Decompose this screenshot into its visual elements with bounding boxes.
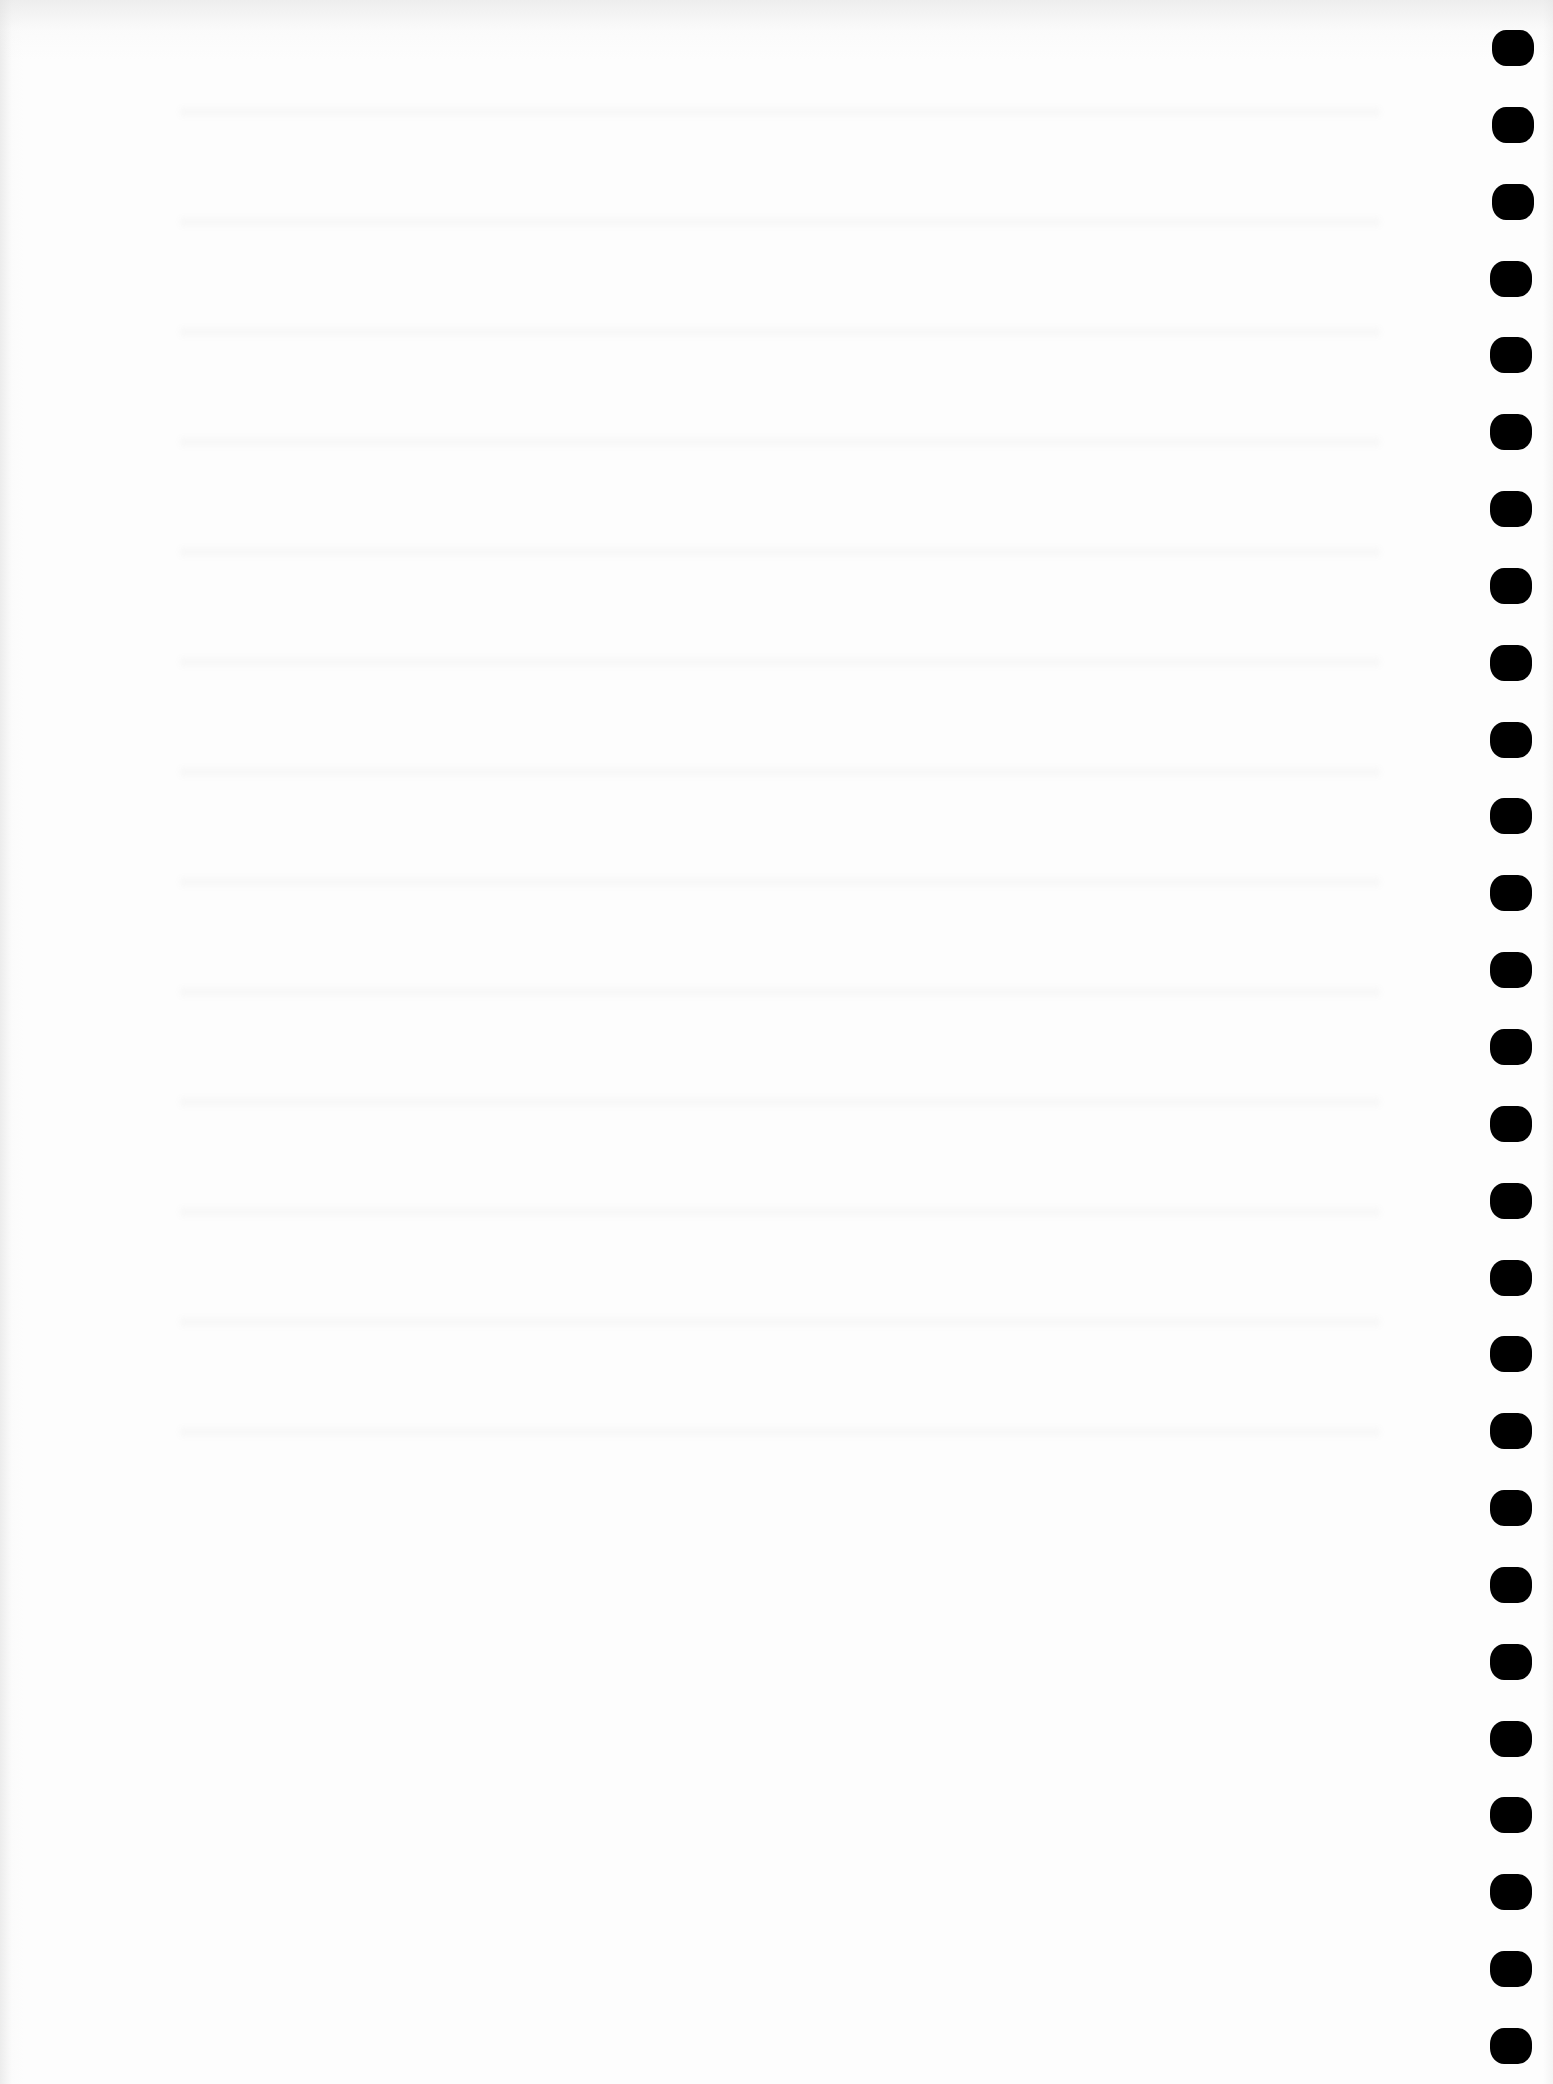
binder-hole [1490,1951,1532,1987]
binder-hole [1492,30,1534,66]
binder-hole [1490,1874,1532,1910]
binder-hole [1490,2028,1532,2064]
binder-hole [1490,1183,1532,1219]
binder-hole [1490,645,1532,681]
blank-scanned-page [0,0,1553,2084]
binder-hole [1490,1490,1532,1526]
binder-hole [1490,414,1532,450]
binder-hole [1490,261,1532,297]
binder-hole [1490,798,1532,834]
binder-hole [1490,568,1532,604]
binder-hole [1490,875,1532,911]
bleed-through-shadow [180,60,1380,1460]
binder-hole [1490,1336,1532,1372]
binder-hole [1490,1797,1532,1833]
binder-hole [1490,1721,1532,1757]
binder-hole [1490,1644,1532,1680]
binder-hole [1492,184,1534,220]
binder-hole [1490,722,1532,758]
binder-hole [1490,1413,1532,1449]
binder-hole [1490,952,1532,988]
binder-hole [1490,1567,1532,1603]
binder-hole [1490,337,1532,373]
binder-hole [1490,491,1532,527]
binder-hole [1490,1029,1532,1065]
binder-holes [1490,0,1534,2084]
binder-hole [1492,107,1534,143]
binder-hole [1490,1106,1532,1142]
binder-hole [1490,1260,1532,1296]
